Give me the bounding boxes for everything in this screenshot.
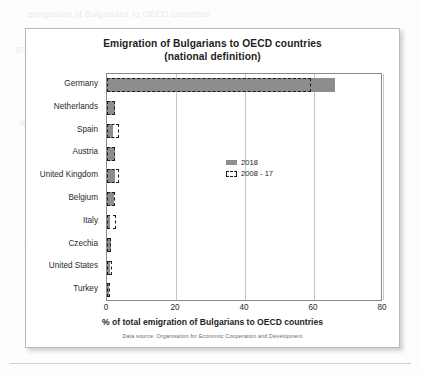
gridline xyxy=(176,74,177,300)
chart-title-line-2: (national definition) xyxy=(26,51,399,64)
plot-area xyxy=(106,73,382,301)
gridline xyxy=(314,74,315,300)
chart-figure: Emigration of Bulgarians to OECD countri… xyxy=(25,28,400,348)
bar-row xyxy=(107,211,381,234)
bar-average-2008-17 xyxy=(107,101,115,115)
legend-swatch-dashed xyxy=(226,171,237,177)
x-tick-60: 60 xyxy=(308,303,317,312)
gridline xyxy=(245,74,246,300)
bar-average-2008-17 xyxy=(107,261,112,275)
bar-average-2008-17 xyxy=(107,78,311,92)
x-tick-20: 20 xyxy=(170,303,179,312)
y-axis-label-germany: Germany xyxy=(26,73,102,96)
legend-label: 2018 xyxy=(241,158,258,167)
bar-rows xyxy=(107,74,381,300)
chart-title-line-1: Emigration of Bulgarians to OECD countri… xyxy=(26,38,399,51)
bar-row xyxy=(107,188,381,211)
y-axis-label-spain: Spain xyxy=(26,119,102,142)
bar-average-2008-17 xyxy=(107,283,110,297)
legend-label: 2008 - 17 xyxy=(241,169,273,178)
x-tick-0: 0 xyxy=(104,303,109,312)
y-axis-label-italy: Italy xyxy=(26,210,102,233)
bar-average-2008-17 xyxy=(107,124,119,138)
y-axis-label-netherlands: Netherlands xyxy=(26,96,102,119)
x-axis-tick-labels: 020406080 xyxy=(106,303,382,315)
y-axis-label-belgium: Belgium xyxy=(26,187,102,210)
bar-average-2008-17 xyxy=(107,192,115,206)
legend-swatch-solid xyxy=(226,160,237,165)
source-note: Data source: Organisation for Economic C… xyxy=(26,333,399,339)
bar-row xyxy=(107,279,381,302)
scanned-page: emigration of Bulgarians to OECD countri… xyxy=(0,0,421,374)
bar-average-2008-17 xyxy=(107,169,119,183)
y-axis-label-united-states: United States xyxy=(26,255,102,278)
legend-item: 2008 - 17 xyxy=(226,168,273,179)
y-axis-label-austria: Austria xyxy=(26,141,102,164)
legend-item: 2018 xyxy=(226,157,273,168)
y-axis-label-czechia: Czechia xyxy=(26,233,102,256)
gridline xyxy=(383,74,384,300)
page-divider-rule xyxy=(10,363,411,364)
y-axis-label-united-kingdom: United Kingdom xyxy=(26,164,102,187)
y-axis-category-labels: GermanyNetherlandsSpainAustriaUnited Kin… xyxy=(26,73,102,301)
y-axis-label-turkey: Turkey xyxy=(26,278,102,301)
background-bleed-text: emigration of Bulgarians to OECD countri… xyxy=(28,9,210,19)
bar-average-2008-17 xyxy=(107,147,115,161)
x-tick-40: 40 xyxy=(239,303,248,312)
bar-row xyxy=(107,256,381,279)
bar-average-2008-17 xyxy=(107,215,116,229)
chart-title: Emigration of Bulgarians to OECD countri… xyxy=(26,38,399,63)
x-axis-title: % of total emigration of Bulgarians to O… xyxy=(26,317,399,327)
bar-row xyxy=(107,97,381,120)
bar-row xyxy=(107,120,381,143)
bar-row xyxy=(107,234,381,257)
bar-row xyxy=(107,74,381,97)
bar-average-2008-17 xyxy=(107,238,111,252)
chart-legend: 20182008 - 17 xyxy=(226,157,273,179)
x-tick-80: 80 xyxy=(377,303,386,312)
